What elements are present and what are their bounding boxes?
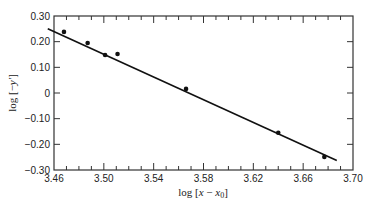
x-tick-label: 3.66 <box>293 173 313 184</box>
data-point <box>85 41 90 46</box>
x-tick-label: 3.54 <box>144 173 164 184</box>
y-tick-label: 0.30 <box>31 11 51 22</box>
y-tick-label: −0.10 <box>25 113 51 124</box>
y-axis-title: log [−y′] <box>6 74 18 112</box>
fit-line <box>48 29 337 161</box>
data-point <box>62 30 67 35</box>
y-tick-label: 0.10 <box>31 62 51 73</box>
x-tick-label: 3.62 <box>244 173 264 184</box>
y-axis-ticks <box>54 42 353 145</box>
chart: 3.463.503.543.583.623.663.70 0.300.200.1… <box>0 0 374 206</box>
data-point <box>322 155 327 160</box>
x-tick-label: 3.50 <box>94 173 114 184</box>
data-point <box>184 87 189 92</box>
x-axis-title: log [x − x0] <box>178 186 228 200</box>
y-axis-tick-labels: 0.300.200.100−0.10−0.20−0.30 <box>25 11 51 176</box>
x-tick-label: 3.70 <box>343 173 363 184</box>
y-tick-label: 0.20 <box>31 36 51 47</box>
data-point <box>276 130 281 135</box>
y-tick-label: −0.20 <box>25 139 51 150</box>
data-point <box>115 52 120 57</box>
data-point <box>103 53 108 58</box>
y-tick-label: −0.30 <box>25 165 51 176</box>
y-tick-label: 0 <box>44 88 50 99</box>
x-axis-ticks <box>66 16 340 170</box>
x-axis-tick-labels: 3.463.503.543.583.623.663.70 <box>44 173 363 184</box>
data-points <box>62 30 327 160</box>
x-tick-label: 3.58 <box>194 173 214 184</box>
